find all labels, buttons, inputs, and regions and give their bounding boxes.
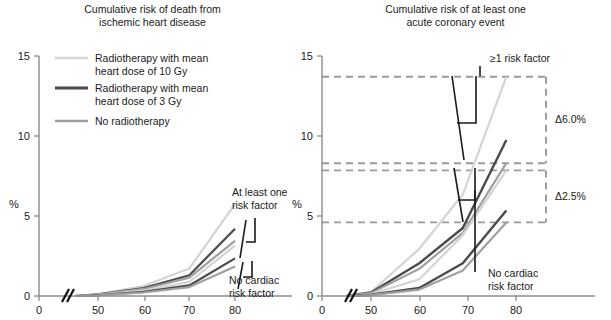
x-tick-label-0: 0 [319,304,325,316]
annotations-group: At least onerisk factorNo cardiacrisk fa… [229,186,288,299]
annotation-no-cardiac-line1: No cardiac [488,267,538,279]
x-tick-label-2: 60 [139,304,151,316]
legend-label-2-line1: No radiotherapy [95,115,170,127]
y-tick-label-0: 0 [307,290,313,302]
left-chart-svg: 051015050607080%At least onerisk factorN… [0,0,305,320]
delta-upper-label: Δ6.0% [555,113,586,125]
legend-label-0-line1: Radiotherapy with mean [95,52,208,64]
annotation-at-least-one-line2: risk factor [232,199,278,211]
legend-label-1-line2: heart dose of 3 Gy [95,95,182,107]
annotation-no-cardiac-line2: risk factor [488,280,534,292]
x-tick-label-1: 50 [92,304,104,316]
y-axis-label: % [292,198,302,210]
y-tick-label-2: 10 [301,130,313,142]
annotation-at-least-one-line1: ≥1 risk factor [490,52,551,64]
axes-group: 051015050607080% [292,50,595,316]
series-2 [347,163,506,296]
x-tick-label-3: 70 [462,304,474,316]
bracket-upper-stem [452,76,464,160]
y-tick-label-3: 15 [18,50,30,62]
annotation-no-cardiac-line2: risk factor [229,287,275,299]
y-tick-label-1: 5 [24,210,30,222]
legend-label-0-line2: heart dose of 10 Gy [95,65,188,77]
x-tick-label-2: 60 [414,304,426,316]
y-tick-label-2: 10 [18,130,30,142]
x-tick-label-4: 80 [229,304,241,316]
bracket-upper-stem [240,220,246,258]
y-tick-label-3: 15 [301,50,313,62]
bracket-upper [246,218,255,242]
series-group [347,77,506,296]
annotation-at-least-one-line1: At least one [232,186,288,198]
series-group [75,204,235,296]
x-tick-label-0: 0 [36,304,42,316]
bracket-upper [457,76,476,123]
y-tick-label-1: 5 [307,210,313,222]
annotation-no-cardiac-line1: No cardiac [229,274,279,286]
legend-label-1-line1: Radiotherapy with mean [95,82,208,94]
series-0 [75,204,235,296]
x-tick-label-4: 80 [510,304,522,316]
right-chart-svg: 051015050607080%≥1 risk factorΔ6.0%Δ2.5%… [300,0,611,320]
y-axis-label: % [9,198,19,210]
right-chart-panel: Cumulative risk of at least one acute co… [300,0,611,320]
delta-lower-label: Δ2.5% [555,190,586,202]
legend: Radiotherapy with meanheart dose of 10 G… [55,52,208,127]
left-chart-panel: Cumulative risk of death from ischemic h… [0,0,305,320]
y-tick-label-0: 0 [24,290,30,302]
reference-lines-group [322,77,546,223]
x-tick-label-1: 50 [365,304,377,316]
x-tick-label-3: 70 [183,304,195,316]
